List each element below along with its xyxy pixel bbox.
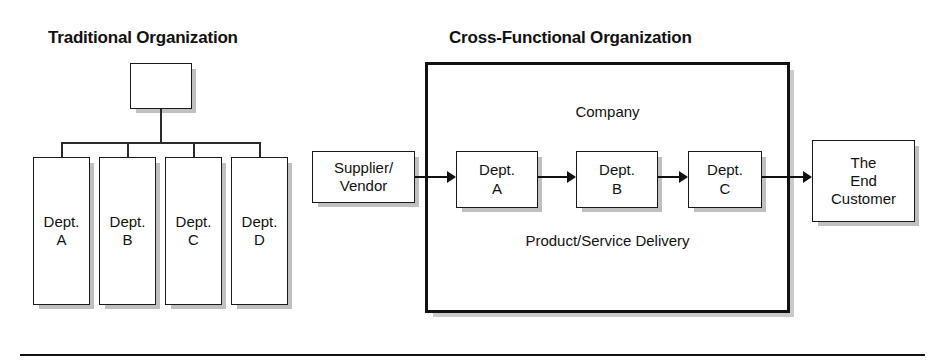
end-customer-line3: Customer [831,190,896,208]
arrow-supplier-to-dept-a [415,171,456,183]
traditional-dept-d: Dept. D [231,157,288,305]
traditional-dept-d-line2: D [242,231,278,249]
end-customer-line2: End [831,172,896,190]
org-chart-bus [61,142,260,144]
crossfn-dept-a: Dept. A [456,151,538,208]
crossfn-dept-c-line2: C [707,180,743,198]
arrow-shaft [538,176,567,178]
supplier-vendor-line2: Vendor [334,177,393,195]
end-customer-line1: The [831,154,896,172]
product-service-delivery-label: Product/Service Delivery [425,232,790,249]
cross-functional-organization-figure: Traditional Organization Dept. A Dept. B… [0,0,945,362]
crossfn-dept-c-line1: Dept. [707,161,743,179]
traditional-dept-a-line1: Dept. [44,213,80,231]
arrow-shaft [658,176,679,178]
arrow-head-icon [679,171,688,183]
end-customer-node: The End Customer [812,140,915,222]
arrow-shaft [415,176,447,178]
arrow-head-icon [447,171,456,183]
org-chart-stem [160,109,162,142]
traditional-dept-c-line2: C [176,231,212,249]
traditional-dept-c: Dept. C [165,157,222,305]
traditional-dept-b: Dept. B [99,157,156,305]
crossfn-dept-b-line1: Dept. [599,161,635,179]
crossfn-dept-a-line1: Dept. [479,161,515,179]
traditional-dept-c-line1: Dept. [176,213,212,231]
crossfn-dept-b: Dept. B [576,151,658,208]
arrow-head-icon [567,171,576,183]
org-chart-drop-b [127,142,129,158]
company-label: Company [425,103,790,120]
arrow-head-icon [803,171,812,183]
traditional-dept-d-line1: Dept. [242,213,278,231]
cross-functional-organization-title: Cross-Functional Organization [449,28,692,48]
traditional-dept-a: Dept. A [33,157,90,305]
traditional-dept-b-line1: Dept. [110,213,146,231]
arrow-shaft [762,176,803,178]
crossfn-dept-c: Dept. C [688,151,762,208]
supplier-vendor-line1: Supplier/ [334,159,393,177]
org-chart-drop-d [259,142,261,158]
arrow-dept-b-to-dept-c [658,171,688,183]
crossfn-dept-b-line2: B [599,180,635,198]
org-chart-drop-a [61,142,63,158]
footer-divider [20,354,925,356]
arrow-dept-a-to-dept-b [538,171,576,183]
arrow-dept-c-to-customer [762,171,812,183]
traditional-dept-a-line2: A [44,231,80,249]
org-chart-drop-c [193,142,195,158]
traditional-organization-title: Traditional Organization [48,28,238,48]
traditional-top-node [130,63,192,109]
supplier-vendor-node: Supplier/ Vendor [312,151,415,203]
crossfn-dept-a-line2: A [479,180,515,198]
traditional-dept-b-line2: B [110,231,146,249]
